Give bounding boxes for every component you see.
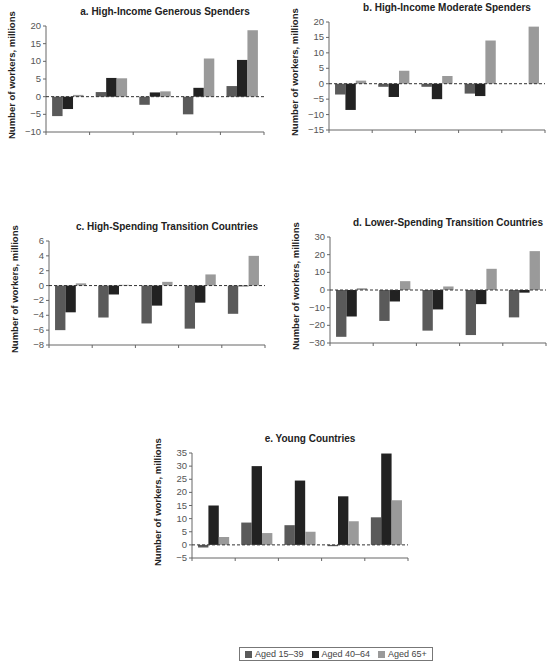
legend-item-aged-40-64: Aged 40–64 (312, 649, 371, 659)
bar (295, 481, 305, 545)
legend-item-aged-65-plus: Aged 65+ (378, 649, 427, 659)
bar (284, 525, 294, 545)
bar (381, 454, 391, 545)
bar (262, 533, 272, 545)
bar (392, 500, 402, 545)
bar (208, 506, 218, 545)
legend-swatch-icon (378, 651, 385, 658)
legend-item-aged-15-39: Aged 15–39 (245, 649, 304, 659)
legend: Aged 15–39 Aged 40–64 Aged 65+ (239, 647, 433, 661)
legend-swatch-icon (312, 651, 319, 658)
bar (305, 532, 315, 545)
bar (348, 521, 358, 545)
legend-swatch-icon (245, 651, 252, 658)
bar (241, 523, 251, 545)
bar (252, 466, 262, 545)
bar (338, 496, 348, 545)
bar (219, 537, 229, 545)
bar (371, 517, 381, 545)
plot-area (0, 0, 556, 669)
